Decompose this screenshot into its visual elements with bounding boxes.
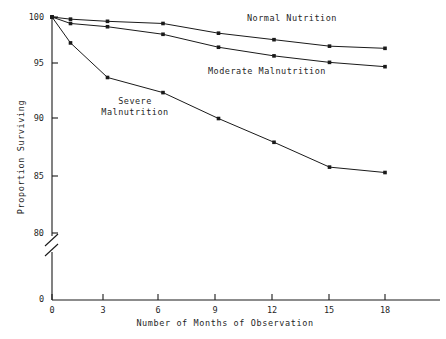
y-tick-label-0: 0 (18, 294, 44, 304)
data-point-marker (161, 91, 165, 95)
y-tick-label-100: 100 (18, 12, 44, 22)
chart-figure: 100 95 90 85 80 0 0 3 6 9 12 15 18 Propo… (0, 0, 446, 339)
series-severe-malnutrition (50, 15, 387, 174)
series-line (52, 17, 385, 67)
data-point-marker (383, 65, 387, 69)
x-tick-label-0: 0 (42, 305, 62, 315)
data-point-marker (69, 41, 73, 45)
x-tick-label-3: 3 (93, 305, 113, 315)
data-point-marker (217, 31, 221, 35)
data-point-marker (328, 165, 332, 169)
severe-label-line-1: Severe (85, 96, 185, 107)
y-axis-title: Proportion Surviving (16, 92, 26, 222)
series-layer (50, 15, 387, 174)
data-point-marker (69, 17, 73, 21)
series-line (52, 17, 385, 173)
x-tick-label-9: 9 (205, 305, 225, 315)
data-point-marker (328, 61, 332, 65)
data-point-marker (328, 44, 332, 48)
y-tick-label-80: 80 (18, 228, 44, 238)
severe-label-line-2: Malnutrition (85, 107, 185, 118)
data-point-marker (272, 54, 276, 58)
data-point-marker (161, 32, 165, 36)
data-point-marker (106, 25, 110, 29)
series-label-severe-malnutrition: Severe Malnutrition (85, 96, 185, 118)
series-label-moderate-malnutrition: Moderate Malnutrition (208, 66, 326, 77)
data-point-marker (383, 47, 387, 51)
data-point-marker (50, 15, 54, 19)
data-point-marker (217, 45, 221, 49)
survival-line-chart (0, 0, 446, 339)
data-point-marker (383, 171, 387, 175)
x-axis-title: Number of Months of Observation (110, 318, 340, 328)
data-point-marker (272, 38, 276, 42)
data-point-marker (217, 117, 221, 121)
data-point-marker (106, 20, 110, 24)
x-tick-label-12: 12 (262, 305, 282, 315)
data-point-marker (106, 76, 110, 80)
data-point-marker (272, 140, 276, 144)
data-point-marker (69, 22, 73, 26)
y-axis-ticks (52, 17, 58, 233)
y-tick-label-95: 95 (18, 58, 44, 68)
data-point-marker (161, 22, 165, 26)
series-label-normal-nutrition: Normal Nutrition (247, 13, 337, 24)
x-tick-label-15: 15 (319, 305, 339, 315)
x-tick-label-6: 6 (148, 305, 168, 315)
x-axis-ticks (52, 294, 385, 300)
x-tick-label-18: 18 (375, 305, 395, 315)
